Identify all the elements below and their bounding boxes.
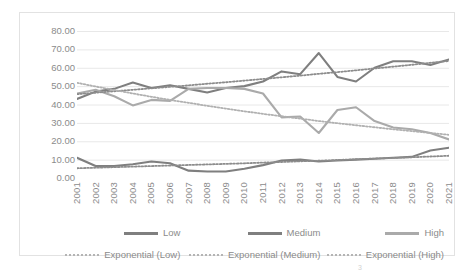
x-axis-tick-label: 2007	[184, 182, 194, 204]
legend-item-label: Medium	[287, 228, 321, 238]
legend-swatch-dotted-icon	[327, 254, 361, 256]
legend-item[interactable]: Exponential (High)	[320, 245, 444, 265]
plot-area	[77, 31, 449, 178]
x-axis-tick-label: 2002	[91, 182, 101, 204]
x-axis-tick-label: 2015	[332, 182, 342, 204]
x-axis-tick-label: 2004	[128, 182, 138, 204]
x-axis: 2001200220032004200520062007200820092010…	[77, 182, 449, 224]
legend-swatch-solid-icon	[385, 232, 419, 235]
legend-swatch-dotted-icon	[189, 254, 223, 256]
x-axis-tick-label: 2012	[277, 182, 287, 204]
y-axis-tick-label: 20.00	[39, 137, 75, 147]
y-axis-tick-label: 30.00	[39, 118, 75, 128]
legend-item[interactable]: High	[320, 223, 444, 243]
x-axis-tick-label: 2021	[444, 182, 454, 204]
x-axis-tick-label: 2008	[202, 182, 212, 204]
y-axis-tick-label: 40.00	[39, 100, 75, 110]
legend-item-label: Exponential (Low)	[104, 250, 180, 260]
x-axis-tick-label: 2005	[146, 182, 156, 204]
page-number-artifact: 3	[358, 264, 362, 271]
x-axis-tick-label: 2013	[295, 182, 305, 204]
x-axis-tick-label: 2010	[239, 182, 249, 204]
legend-item[interactable]: Exponential (Low)	[32, 245, 180, 265]
x-axis-tick-label: 2016	[351, 182, 361, 204]
series-line	[77, 53, 449, 99]
series-line	[77, 156, 449, 168]
x-axis-tick-label: 2014	[314, 182, 324, 204]
x-axis-tick-label: 2009	[221, 182, 231, 204]
x-axis-tick-label: 2019	[407, 182, 417, 204]
x-axis-tick-label: 2011	[258, 182, 268, 203]
chart-legend: LowMediumHigh Exponential (Low)Exponenti…	[32, 223, 444, 269]
series-line	[77, 61, 449, 94]
chart-plot-svg	[77, 31, 449, 178]
legend-item-label: Low	[163, 228, 180, 238]
x-axis-tick-label: 2006	[165, 182, 175, 204]
x-axis-tick-label: 2001	[72, 182, 82, 204]
y-axis-tick-label: 0.00	[39, 173, 75, 183]
y-axis-tick-label: 50.00	[39, 81, 75, 91]
y-axis-tick-label: 70.00	[39, 45, 75, 55]
x-axis-tick-label: 2018	[388, 182, 398, 204]
legend-swatch-solid-icon	[124, 232, 158, 235]
legend-swatch-solid-icon	[248, 232, 282, 235]
series-lines	[77, 53, 449, 172]
legend-row-series: LowMediumHigh	[32, 223, 444, 243]
x-axis-tick-label: 2020	[425, 182, 435, 204]
y-axis-tick-label: 80.00	[39, 26, 75, 36]
legend-item-label: Exponential (High)	[366, 250, 444, 260]
y-axis-tick-label: 10.00	[39, 155, 75, 165]
chart-container: 80.0070.0060.0050.0040.0030.0020.0010.00…	[19, 12, 455, 256]
legend-swatch-dotted-icon	[65, 254, 99, 256]
legend-item[interactable]: Low	[32, 223, 180, 243]
legend-row-trendlines: Exponential (Low)Exponential (Medium)Exp…	[32, 245, 444, 265]
legend-item[interactable]: Exponential (Medium)	[180, 245, 320, 265]
y-axis: 80.0070.0060.0050.0040.0030.0020.0010.00…	[39, 31, 75, 178]
x-axis-tick-label: 2017	[370, 182, 380, 204]
legend-item[interactable]: Medium	[180, 223, 320, 243]
legend-item-label: Exponential (Medium)	[228, 250, 320, 260]
x-axis-tick-label: 2003	[109, 182, 119, 204]
legend-item-label: High	[424, 228, 444, 238]
y-axis-tick-label: 60.00	[39, 63, 75, 73]
